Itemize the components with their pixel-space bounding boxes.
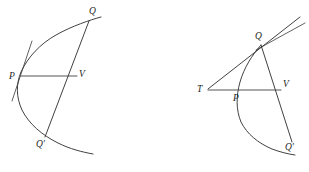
left-figure: Q P V Q': [8, 6, 101, 154]
geometry-figure-board: Q P V Q' Q T P V Q': [0, 0, 309, 172]
left-chord-qqprime: [45, 21, 89, 137]
right-label-qprime: Q': [285, 142, 295, 152]
left-label-qprime: Q': [36, 139, 46, 149]
left-label-q: Q: [89, 6, 96, 16]
right-label-p: P: [232, 93, 239, 103]
left-label-v: V: [79, 69, 86, 79]
left-label-p: P: [8, 71, 15, 81]
geometry-diagram-svg: Q P V Q' Q T P V Q': [0, 0, 309, 172]
right-figure: Q T P V Q': [197, 17, 305, 155]
right-chord-qqprime: [261, 45, 292, 142]
left-tangent-line-at-p: [12, 41, 32, 101]
right-label-v: V: [283, 79, 290, 89]
right-label-q: Q: [255, 31, 262, 41]
right-label-t: T: [197, 84, 203, 94]
right-tangent-extension-ray: [256, 23, 305, 50]
left-parabola-curve: [17, 17, 101, 154]
